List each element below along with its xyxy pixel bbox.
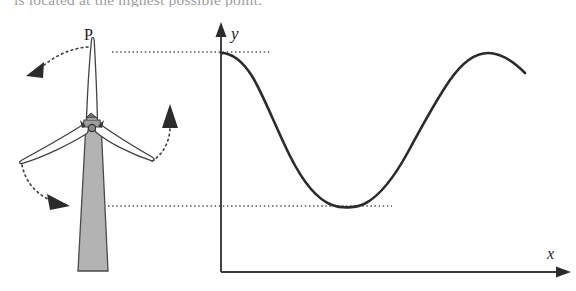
- rotation-arrow-lower-left-head: [47, 194, 70, 210]
- turbine-blade-left: [20, 124, 89, 164]
- rotation-arrow-lower-left-arc: [22, 165, 48, 199]
- point-p-label: P: [84, 26, 93, 44]
- rotation-arrow-upper-left-head: [26, 62, 44, 78]
- turbine-blade-right: [95, 124, 154, 161]
- turbine-tower: [78, 123, 108, 271]
- figure-root: is located at the highest possible point…: [0, 0, 576, 291]
- x-axis-label: x: [547, 245, 554, 263]
- rotation-arrow-right-head: [162, 104, 178, 128]
- turbine-blade-top: [86, 37, 97, 126]
- x-axis-arrowhead: [556, 267, 571, 278]
- y-axis-label: y: [231, 24, 239, 44]
- turbine-hub-icon: [88, 124, 95, 131]
- y-axis-arrowhead: [216, 22, 227, 37]
- rotation-arrow-right-arc: [152, 127, 170, 161]
- axes-group: [216, 22, 572, 278]
- height-curve: [221, 53, 525, 207]
- rotation-arrow-upper-left-arc: [43, 47, 88, 66]
